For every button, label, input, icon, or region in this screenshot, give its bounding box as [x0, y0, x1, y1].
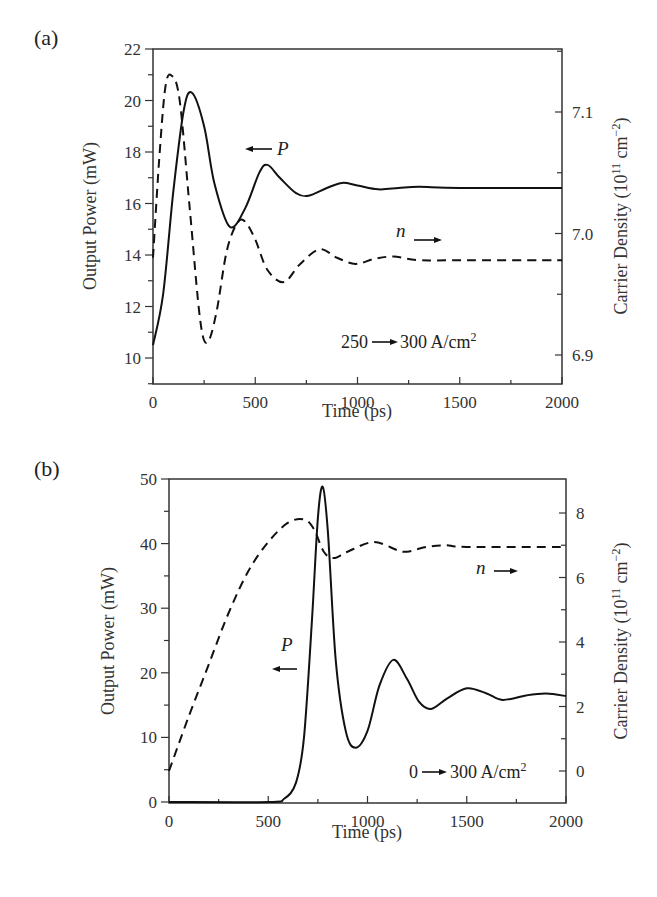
panel-a-x-axis-title: Time (ps)	[322, 401, 392, 422]
svg-text:P: P	[276, 138, 289, 159]
panel-b-annotation-n: n	[476, 557, 518, 578]
y-left-tick-label: 0	[149, 793, 158, 812]
x-tick-label: 1500	[450, 812, 484, 831]
panel-b-annotation-current-step: 0 300 A/cm2	[409, 760, 527, 782]
y-right-tick-label: 7.1	[572, 103, 593, 122]
svg-text:300 A/cm2: 300 A/cm2	[450, 760, 527, 782]
arrowhead-icon	[390, 339, 398, 345]
svg-text:n: n	[476, 557, 486, 578]
arrowhead-icon	[439, 769, 447, 775]
panel-b: (b) 0500100015002000 01020304050 02468 T…	[34, 456, 632, 843]
panel-a-density-curve	[153, 75, 562, 344]
svg-text:300 A/cm2: 300 A/cm2	[400, 330, 477, 352]
panel-b-plot-frame	[169, 479, 566, 803]
y-left-tick-label: 20	[140, 664, 157, 683]
y-left-tick-label: 10	[140, 728, 157, 747]
svg-text:0: 0	[409, 762, 418, 782]
panel-a-y-left-ticks: 10121416182022	[124, 40, 153, 384]
y-left-tick-label: 14	[124, 246, 142, 265]
panel-a: (a) 0500100015002000 10121416182022 6.97…	[34, 25, 632, 422]
x-tick-label: 500	[243, 393, 269, 412]
x-tick-label: 0	[149, 393, 158, 412]
arrowhead-icon	[272, 666, 280, 672]
panel-a-power-curve	[153, 92, 562, 345]
panel-b-y-right-ticks: 02468	[559, 504, 585, 781]
y-left-tick-label: 12	[124, 298, 141, 317]
x-tick-label: 1500	[443, 393, 477, 412]
panel-b-power-curve	[169, 487, 566, 803]
panel-b-y-right-axis-title: Carrier Density (1011 cm−2)	[609, 543, 632, 740]
svg-text:n: n	[396, 220, 406, 241]
x-tick-label: 2000	[545, 393, 579, 412]
y-left-tick-label: 40	[140, 535, 157, 554]
y-right-tick-label: 4	[576, 633, 585, 652]
panel-a-annotation-current-step: 250 300 A/cm2	[341, 330, 477, 352]
arrowhead-icon	[434, 237, 442, 243]
panel-b-annotation-p: P	[272, 634, 297, 672]
y-left-tick-label: 10	[124, 349, 141, 368]
y-right-tick-label: 0	[576, 762, 585, 781]
panel-a-annotation-p: P	[245, 138, 289, 159]
y-left-tick-label: 18	[124, 143, 141, 162]
arrowhead-icon	[510, 568, 518, 574]
x-tick-label: 0	[165, 812, 174, 831]
y-left-tick-label: 20	[124, 92, 141, 111]
panel-b-label: (b)	[34, 456, 60, 481]
panel-b-x-axis-title: Time (ps)	[332, 822, 402, 843]
arrowhead-icon	[245, 146, 253, 152]
y-right-tick-label: 2	[576, 698, 585, 717]
y-right-tick-label: 8	[576, 504, 585, 523]
panel-a-label: (a)	[34, 25, 58, 50]
y-left-tick-label: 16	[124, 195, 141, 214]
panel-b-y-left-ticks: 01020304050	[140, 470, 169, 812]
svg-text:P: P	[280, 634, 293, 655]
x-tick-label: 500	[256, 812, 282, 831]
panel-a-y-right-ticks: 6.97.07.1	[555, 51, 593, 365]
y-right-tick-label: 6	[576, 569, 585, 588]
x-tick-label: 2000	[549, 812, 583, 831]
panel-a-y-right-axis-title: Carrier Density (1011 cm−2)	[609, 118, 632, 315]
y-left-tick-label: 22	[124, 40, 141, 59]
y-left-tick-label: 50	[140, 470, 157, 489]
y-right-tick-label: 6.9	[572, 346, 593, 365]
panel-b-y-left-axis-title: Output Power (mW)	[98, 567, 119, 715]
y-right-tick-label: 7.0	[572, 225, 593, 244]
figure: (a) 0500100015002000 10121416182022 6.97…	[0, 0, 657, 897]
panel-a-y-left-axis-title: Output Power (mW)	[80, 142, 101, 290]
y-left-tick-label: 30	[140, 599, 157, 618]
svg-text:250: 250	[341, 332, 368, 352]
panel-a-annotation-n: n	[396, 220, 442, 243]
